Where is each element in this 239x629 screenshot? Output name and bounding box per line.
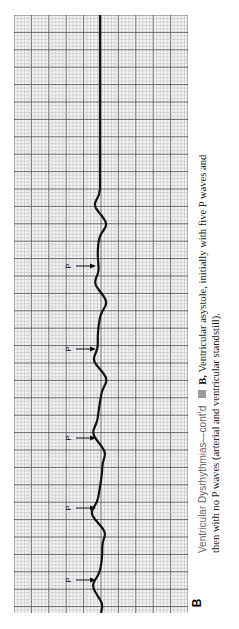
p-wave-label: P xyxy=(64,346,73,351)
figure-caption-wrap: Ventricular Dysrhythmias—cont’dB, Ventri… xyxy=(195,0,239,629)
p-wave-label: P xyxy=(64,435,73,440)
p-wave-label: P xyxy=(64,263,73,268)
caption-lead: Ventricular Dysrhythmias—cont’d xyxy=(197,406,208,553)
figure-caption: Ventricular Dysrhythmias—cont’dB, Ventri… xyxy=(197,33,222,553)
caption-panel-ref: B, xyxy=(197,375,208,385)
p-wave-label: P xyxy=(64,577,73,582)
cropped-text-fragment xyxy=(60,0,180,4)
caption-line2: then with no P waves (arterial and ventr… xyxy=(210,313,221,553)
ecg-grid-and-trace: PPPPP xyxy=(14,15,188,613)
ecg-strip: PPPPP xyxy=(14,15,188,613)
square-bullet-icon xyxy=(198,390,206,398)
p-wave-label: P xyxy=(64,505,73,510)
caption-line1: Ventricular asystole, initially with fiv… xyxy=(197,155,208,375)
